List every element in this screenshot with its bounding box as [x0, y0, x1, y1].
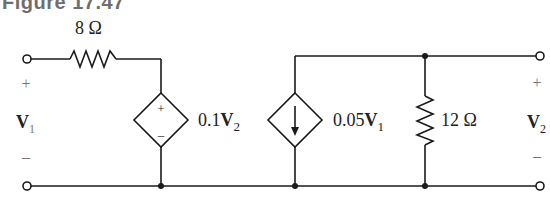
- junction-dot: [292, 183, 298, 189]
- vcvs-minus-sign: –: [157, 127, 165, 142]
- junction-dot: [422, 183, 428, 189]
- vcvs-label: 0.1V2: [198, 110, 240, 134]
- v1-minus-sign: –: [21, 148, 31, 165]
- terminal-input-minus: [23, 182, 31, 190]
- resistor-8ohm-label: 8 Ω: [75, 18, 102, 38]
- resistor-12ohm-label: 12 Ω: [441, 110, 477, 130]
- current-arrowhead-icon: [291, 127, 299, 136]
- v2-plus-sign: +: [532, 74, 541, 91]
- vccs-label: 0.05V1: [333, 110, 384, 134]
- resistor-8ohm-icon: [70, 51, 116, 67]
- v1-plus-sign: +: [21, 75, 30, 92]
- vcvs-plus-sign: +: [157, 101, 164, 116]
- circuit-diagram: 8 Ω + – 0.1V2 0.05V1 12 Ω + V1 – + V2 –: [0, 0, 550, 203]
- terminal-input-plus: [23, 55, 31, 63]
- junction-dot: [422, 53, 428, 59]
- v2-label: V2: [527, 112, 546, 136]
- terminal-output-plus: [536, 52, 544, 60]
- v2-minus-sign: –: [532, 147, 542, 164]
- v1-label: V1: [16, 112, 35, 136]
- terminal-output-minus: [536, 182, 544, 190]
- junction-dot: [158, 183, 164, 189]
- resistor-12ohm-icon: [417, 96, 433, 145]
